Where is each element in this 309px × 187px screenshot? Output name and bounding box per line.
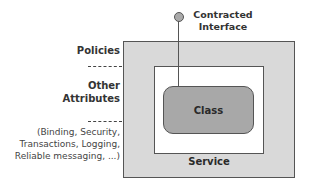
examples-line3: Reliable messaging, ...) [0,150,120,162]
contracted-interface-label: Contracted Interface [188,9,258,33]
examples-line2: Transactions, Logging, [0,138,120,150]
other-attributes-label: Other Attributes [63,79,120,105]
other-label-line1: Other [63,79,120,92]
class-box: Class [163,86,254,134]
interface-endpoint-icon [174,12,184,22]
interface-label-line2: Interface [188,21,258,33]
examples-line1: (Binding, Security, [0,126,120,138]
interface-label-line1: Contracted [188,9,258,21]
attribute-examples-note: (Binding, Security, Transactions, Loggin… [0,126,120,162]
interface-connector-line [178,20,179,86]
other-label-line2: Attributes [63,92,120,105]
policies-label: Policies [77,44,120,57]
divider-dashed-1 [88,66,122,67]
service-label: Service [123,156,295,167]
divider-dashed-2 [88,121,122,122]
class-label: Class [194,105,223,116]
